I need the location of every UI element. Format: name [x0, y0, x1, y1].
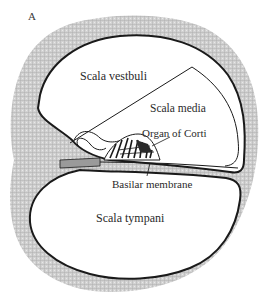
- label-basilar-membrane: Basilar membrane: [112, 178, 192, 190]
- label-organ-of-corti: Organ of Corti: [142, 127, 207, 139]
- label-scala-tympani: Scala tympani: [96, 211, 165, 225]
- label-scala-media: Scala media: [150, 102, 206, 114]
- cochlea-diagram: A Scala vestbuli Scala media Organ of Co…: [0, 0, 262, 303]
- label-scala-vestibuli: Scala vestbuli: [80, 69, 148, 83]
- cochlea-cross-section-figure: A Scala vestbuli Scala media Organ of Co…: [0, 0, 262, 303]
- panel-label: A: [28, 10, 36, 22]
- spiral-lamina: [60, 158, 100, 168]
